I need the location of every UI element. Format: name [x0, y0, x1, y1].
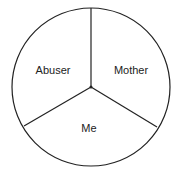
pie-diagram	[0, 0, 176, 175]
slice-label-me: Me	[81, 122, 96, 134]
slice-label-abuser: Abuser	[36, 64, 71, 76]
slice-label-mother: Mother	[114, 64, 148, 76]
center-dot	[90, 86, 93, 89]
